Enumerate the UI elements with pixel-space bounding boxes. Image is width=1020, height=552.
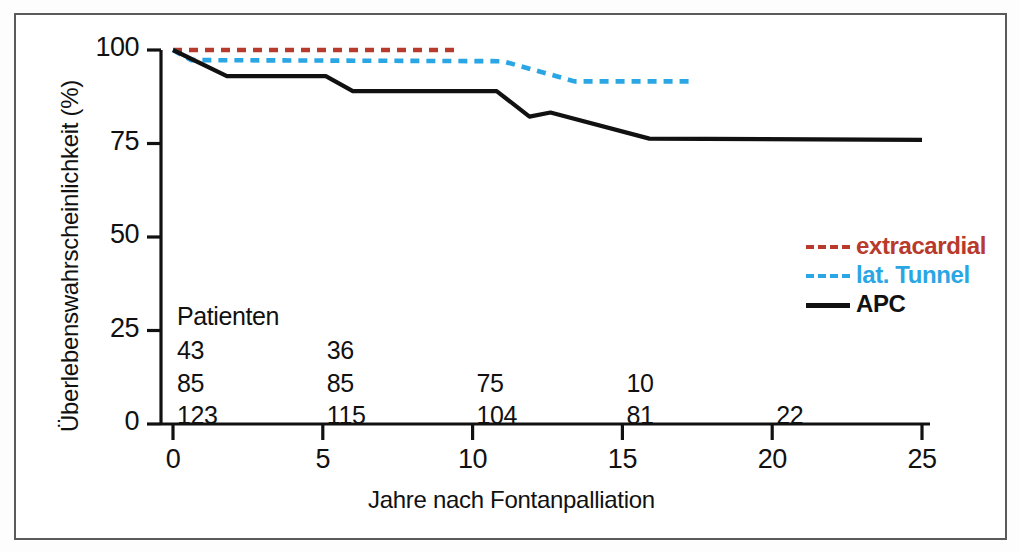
risk-count: 104 (477, 401, 518, 430)
x-tick-label-15: 15 (592, 444, 652, 475)
risk-count: 43 (177, 336, 204, 365)
series-line-apc (173, 50, 922, 140)
legend-item-apc[interactable]: APC (806, 290, 1016, 319)
legend-item-extracardial[interactable]: extracardial (806, 232, 1016, 261)
legend-label-apc: APC (856, 290, 905, 318)
figure-canvas: 0255075100 0510152025 Überlebenswahrsche… (0, 0, 1020, 552)
data-series (173, 50, 922, 140)
risk-count: 81 (626, 401, 653, 430)
legend-swatch-extracardial (806, 245, 850, 249)
risk-count: 10 (626, 369, 653, 398)
risk-count: 75 (477, 369, 504, 398)
risk-table-title: Patienten (177, 302, 279, 331)
risk-count: 85 (327, 369, 354, 398)
x-tick-label-25: 25 (892, 444, 952, 475)
x-tick-label-0: 0 (143, 444, 203, 475)
x-axis-title: Jahre nach Fontanpalliation (368, 486, 655, 514)
legend-item-lat-tunnel[interactable]: lat. Tunnel (806, 261, 1016, 290)
x-tick-label-10: 10 (443, 444, 503, 475)
legend: extracardial lat. Tunnel APC (806, 232, 1016, 319)
risk-count: 22 (776, 401, 803, 430)
legend-swatch-lat-tunnel (806, 274, 850, 278)
x-tick-label-5: 5 (293, 444, 353, 475)
risk-count: 85 (177, 369, 204, 398)
legend-label-extracardial: extracardial (856, 232, 986, 260)
legend-label-lat-tunnel: lat. Tunnel (856, 261, 970, 289)
y-tick-label-100: 100 (69, 32, 139, 63)
risk-count: 36 (327, 336, 354, 365)
x-tick-label-20: 20 (742, 444, 802, 475)
legend-swatch-apc (806, 303, 850, 308)
risk-count: 123 (177, 401, 218, 430)
y-axis-title: Überlebenswahrscheinlichkeit (%) (56, 80, 84, 432)
risk-count: 115 (327, 401, 366, 430)
